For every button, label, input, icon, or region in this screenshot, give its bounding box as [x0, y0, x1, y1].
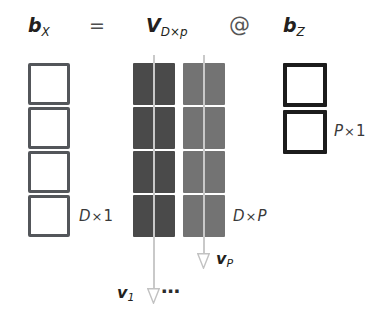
lhs-symbol-subscript: X — [42, 25, 50, 39]
rhs-symbol-label: bZ — [283, 16, 305, 38]
lhs-vector-cell — [28, 63, 70, 105]
rhs-symbol-base: b — [283, 14, 297, 36]
diagram-canvas: bX = VD×p @ bZ D×1 D×P P×1 v1 — [0, 0, 385, 325]
lhs-vector-cell — [28, 195, 70, 237]
vp-subscript: P — [226, 257, 233, 270]
matrix-column-arrow-shaft — [203, 55, 205, 255]
matrix-symbol-subscript: D×p — [161, 25, 188, 39]
matrix-symbol-label: VD×p — [146, 16, 188, 38]
matrix-dim-rows: D — [233, 207, 245, 225]
lhs-symbol-base: b — [28, 14, 42, 36]
matrix-column-arrow-head — [197, 253, 209, 266]
matrix-symbol-base: V — [146, 14, 161, 36]
lhs-vector-cell — [28, 151, 70, 193]
v1-symbol: v — [117, 283, 127, 302]
vp-symbol: v — [216, 249, 226, 268]
rhs-vector-cell — [283, 63, 327, 107]
lhs-dim-rows: D — [79, 207, 91, 225]
matrix-dim-cols: P — [257, 207, 266, 225]
equals-sign: = — [89, 16, 105, 35]
lhs-vector-dimension-label: D×1 — [79, 209, 113, 224]
v1-subscript: 1 — [127, 291, 134, 304]
matrix-columns-ellipsis: ⋯ — [161, 282, 181, 301]
lhs-symbol-label: bX — [28, 16, 50, 38]
rhs-dim-rows: P — [334, 122, 343, 140]
rhs-symbol-subscript: Z — [297, 25, 305, 39]
matrix-column-arrow-head — [147, 288, 159, 301]
matrix-column-arrow-shaft — [153, 55, 155, 290]
lhs-dim-cols: 1 — [103, 207, 113, 225]
rhs-vector-cell — [283, 110, 327, 154]
matrix-column-label-v1: v1 — [117, 285, 134, 303]
matmul-operator-icon: @ — [229, 15, 250, 36]
lhs-vector-cell — [28, 107, 70, 149]
lhs-dim-times: × — [91, 209, 104, 224]
rhs-vector-dimension-label: P×1 — [334, 124, 366, 139]
matrix-column-label-vp: vP — [216, 251, 233, 269]
rhs-dim-cols: 1 — [356, 122, 366, 140]
matrix-dimension-label: D×P — [233, 209, 267, 224]
matrix-dim-times: × — [245, 209, 258, 224]
rhs-dim-times: × — [343, 124, 356, 139]
